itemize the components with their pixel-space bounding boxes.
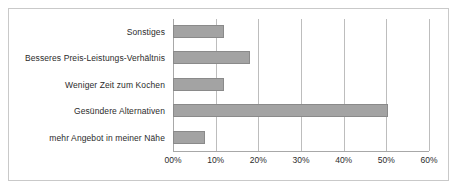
value-axis-tick-labels: 00%10%20%30%40%50%60% [173,155,429,171]
bar-row [173,45,429,71]
category-label: Gesündere Alternativen [74,98,165,124]
gridline-60% [429,19,430,151]
bar[interactable] [173,131,205,144]
value-axis-line [173,151,429,152]
tick-label: 60% [420,155,437,165]
bar-row [173,72,429,98]
chart-frame: SonstigesBesseres Preis-Leistungs-Verhäl… [8,8,449,181]
bar-row [173,125,429,151]
tick-label: 30% [292,155,309,165]
bar[interactable] [173,78,224,91]
bar[interactable] [173,104,388,117]
tick-label: 50% [378,155,395,165]
category-label: Besseres Preis-Leistungs-Verhältnis [25,45,165,71]
bar[interactable] [173,51,250,64]
bar-row [173,19,429,45]
plot-area [173,19,429,151]
tick-label: 10% [207,155,224,165]
category-axis-labels: SonstigesBesseres Preis-Leistungs-Verhäl… [11,19,169,151]
category-label: Sonstiges [127,19,165,45]
tick-label: 20% [250,155,267,165]
category-label: Weniger Zeit zum Kochen [65,72,165,98]
bar-row [173,98,429,124]
category-label: mehr Angebot in meiner Nähe [49,125,165,151]
bar[interactable] [173,25,224,38]
tick-label: 40% [335,155,352,165]
tick-label: 00% [164,155,181,165]
